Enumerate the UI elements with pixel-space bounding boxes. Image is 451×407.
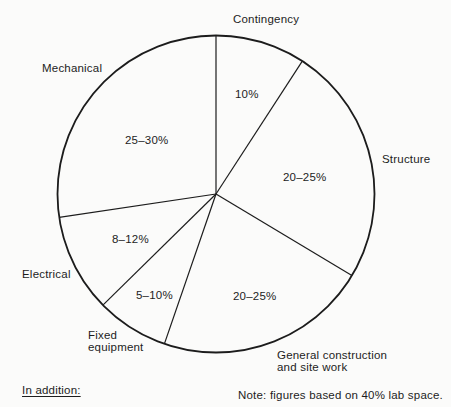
slice-label-electrical: Electrical — [22, 268, 71, 280]
slice-label-general-construction-line2: and site work — [277, 361, 387, 373]
slice-value-contingency: 10% — [235, 88, 259, 100]
in-addition-text: In addition: — [22, 384, 81, 396]
pie-chart-figure: Contingency 10% Structure 20–25% General… — [0, 0, 451, 407]
slice-label-mechanical: Mechanical — [42, 62, 102, 74]
note-text: Note: figures based on 40% lab space. — [238, 389, 443, 401]
slice-label-general-construction-line1: General construction — [277, 349, 387, 361]
slice-label-fixed-equipment-line2: equipment — [88, 341, 144, 353]
slice-boundary-line — [59, 194, 216, 217]
slice-label-contingency: Contingency — [233, 13, 299, 25]
slice-value-mechanical: 25–30% — [125, 134, 168, 146]
slice-boundary-line — [216, 194, 352, 276]
slice-boundary-line — [164, 194, 216, 344]
slice-label-fixed-equipment-line1: Fixed — [88, 329, 144, 341]
slice-label-fixed-equipment: Fixed equipment — [88, 329, 144, 353]
slice-value-fixed-equipment: 5–10% — [136, 289, 173, 301]
slice-value-general-construction: 20–25% — [233, 290, 276, 302]
slice-label-structure: Structure — [382, 153, 430, 165]
slice-label-general-construction: General construction and site work — [277, 349, 387, 373]
slice-value-electrical: 8–12% — [112, 233, 149, 245]
slice-value-structure: 20–25% — [283, 171, 326, 183]
